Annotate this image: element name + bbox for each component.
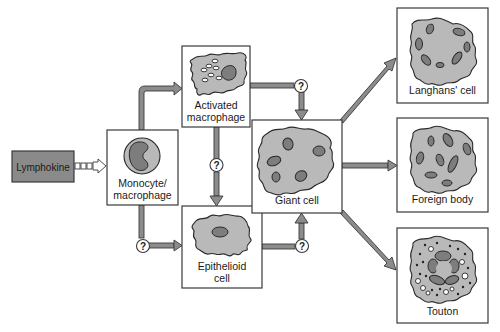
node-monocyte: Monocyte/ macrophage (107, 130, 178, 205)
epithelioid-cell-icon (192, 214, 251, 256)
node-touton: Touton (397, 228, 488, 323)
svg-text:Touton: Touton (427, 305, 459, 317)
arrow-activated-to-giant: ? (250, 80, 308, 121)
node-giant-cell: Giant cell (252, 120, 342, 213)
svg-text:Monocyte/: Monocyte/ (118, 177, 167, 189)
svg-text:macrophage: macrophage (113, 189, 172, 201)
svg-text:macrophage: macrophage (187, 111, 246, 123)
arrow-monocyte-to-epithelioid: ? (137, 205, 183, 253)
node-foreign-body: Foreign body (397, 118, 488, 212)
svg-text:cell: cell (214, 272, 230, 284)
monocyte-cell-icon (124, 138, 160, 174)
svg-text:Activated: Activated (194, 99, 237, 111)
arrow-lymphokine-to-monocyte (75, 159, 106, 173)
arrow-giant-to-langhans (340, 58, 396, 123)
arrow-giant-to-foreign (342, 160, 397, 171)
svg-text:Foreign body: Foreign body (412, 193, 474, 205)
arrow-activated-to-epithelioid: ? (210, 127, 223, 206)
svg-text:?: ? (299, 241, 305, 252)
svg-text:Lymphokine: Lymphokine (16, 162, 70, 173)
arrow-monocyte-to-activated (139, 82, 182, 130)
svg-text:?: ? (213, 160, 219, 171)
arrow-giant-to-touton (340, 210, 396, 270)
touton-cell-icon (410, 236, 477, 303)
svg-text:?: ? (298, 81, 304, 92)
svg-text:?: ? (140, 241, 146, 252)
arrow-epithelioid-to-giant: ? (262, 213, 309, 253)
node-epithelioid-cell: Epithelioid cell (182, 206, 262, 288)
svg-text:Epithelioid: Epithelioid (198, 260, 247, 272)
node-lymphokine: Lymphokine (12, 151, 74, 182)
node-activated-macrophage: Activated macrophage (182, 46, 250, 127)
svg-text:Giant cell: Giant cell (275, 194, 319, 206)
diagram-canvas: ? ? ? ? Lymphokine (0, 0, 500, 332)
svg-text:Langhans' cell: Langhans' cell (409, 84, 476, 96)
node-langhans-cell: Langhans' cell (397, 8, 488, 103)
foreign-body-cell-icon (410, 126, 477, 193)
langhans-cell-icon (410, 18, 477, 85)
